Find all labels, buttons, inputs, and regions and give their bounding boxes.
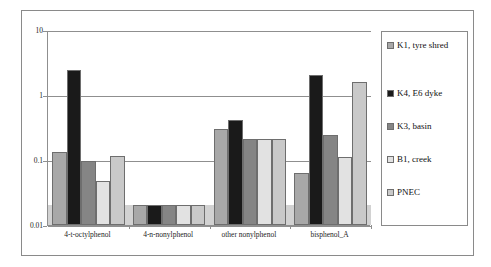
- bar: [214, 129, 229, 225]
- chart-figure: 1010.10.01 4-t-octylphenol4-n-nonylpheno…: [0, 0, 491, 267]
- bar-group: [129, 30, 210, 225]
- bar: [191, 205, 206, 225]
- x-axis-tick-label: other nonylphenol: [209, 230, 290, 240]
- x-axis-tick-mark: [290, 225, 291, 229]
- y-axis-tick-label: 1: [3, 92, 43, 100]
- bar: [323, 135, 338, 225]
- bar: [228, 120, 243, 226]
- bar-group: [290, 30, 371, 225]
- plot-area: [47, 31, 370, 226]
- legend-item[interactable]: K4, E6 dyke: [387, 88, 467, 98]
- legend-label: K3, basin: [397, 121, 432, 131]
- legend-swatch-icon: [387, 42, 394, 49]
- legend-label: PNEC: [397, 187, 420, 197]
- chart-legend: K1, tyre shredK4, E6 dykeK3, basinB1, cr…: [381, 31, 468, 226]
- legend-swatch-icon: [387, 156, 394, 163]
- bar: [176, 205, 191, 225]
- bar: [67, 70, 82, 225]
- legend-item[interactable]: K1, tyre shred: [387, 40, 467, 50]
- bar: [147, 205, 162, 225]
- x-axis: 4-t-octylphenol4-n-nonylphenolother nony…: [47, 230, 370, 244]
- bar: [272, 139, 287, 225]
- bar-group: [210, 30, 291, 225]
- bar: [162, 205, 177, 225]
- bar: [338, 157, 353, 225]
- legend-swatch-icon: [387, 189, 394, 196]
- legend-label: B1, creek: [397, 154, 431, 164]
- x-axis-tick-mark: [210, 225, 211, 229]
- x-axis-tick-label: 4-n-nonylphenol: [128, 230, 209, 240]
- bar-group: [48, 30, 129, 225]
- legend-label: K1, tyre shred: [397, 40, 448, 50]
- bar: [133, 205, 148, 225]
- legend-label: K4, E6 dyke: [397, 88, 442, 98]
- bar: [96, 181, 111, 225]
- bar: [352, 82, 367, 225]
- bar: [52, 152, 67, 225]
- legend-item[interactable]: PNEC: [387, 187, 467, 197]
- bar: [81, 161, 96, 225]
- x-axis-tick-label: 4-t-octylphenol: [47, 230, 128, 240]
- y-axis-tick-mark: [43, 226, 47, 227]
- x-axis-tick-mark: [129, 225, 130, 229]
- y-axis-tick-label: 0.01: [3, 222, 43, 230]
- x-axis-tick-mark: [371, 225, 372, 229]
- bar: [257, 139, 272, 225]
- x-axis-tick-label: bisphenol_A: [289, 230, 370, 240]
- bar: [309, 75, 324, 225]
- bar: [110, 156, 125, 225]
- bar: [294, 173, 309, 225]
- y-axis-tick-label: 10: [3, 27, 43, 35]
- y-axis-tick-label: 0.1: [3, 157, 43, 165]
- legend-item[interactable]: K3, basin: [387, 121, 467, 131]
- legend-swatch-icon: [387, 123, 394, 130]
- legend-item[interactable]: B1, creek: [387, 154, 467, 164]
- bar: [243, 139, 258, 225]
- legend-swatch-icon: [387, 90, 394, 97]
- y-axis: 1010.10.01: [0, 31, 43, 226]
